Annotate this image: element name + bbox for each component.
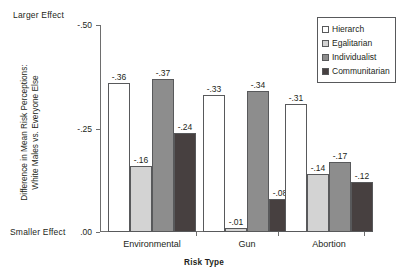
- y-axis-tick-mark: [96, 232, 100, 233]
- x-axis-tick-mark: [364, 232, 365, 236]
- y-axis-tick-label: -.50: [64, 20, 92, 30]
- legend-item[interactable]: Individualist: [322, 50, 390, 64]
- y-axis-title: Difference in Mean Risk Perceptions: Whi…: [19, 48, 40, 218]
- x-axis-tick-mark: [278, 232, 279, 236]
- y-axis-tick-label: .00: [64, 227, 92, 237]
- axis-note-smaller-effect: Smaller Effect: [10, 227, 66, 237]
- bar-value-label: -.34: [243, 80, 273, 90]
- bar-value-label: -.24: [170, 122, 200, 132]
- bar: [351, 182, 373, 232]
- bar-value-label: -.36: [104, 72, 134, 82]
- bar-value-label: -.17: [325, 151, 355, 161]
- legend-item[interactable]: Communitarian: [322, 64, 390, 78]
- y-axis-tick-label: -.25: [64, 124, 92, 134]
- legend-swatch-icon: [322, 68, 329, 75]
- bar-value-label: -.31: [281, 93, 311, 103]
- bar-value-label: -.33: [199, 84, 229, 94]
- bar: [130, 166, 152, 232]
- legend: HierarchEgalitarianIndividualistCommunit…: [317, 17, 396, 83]
- axis-note-larger-effect: Larger Effect: [13, 10, 64, 20]
- y-axis-tick-mark: [96, 129, 100, 130]
- bar: [225, 228, 247, 232]
- bar: [174, 133, 196, 232]
- legend-item[interactable]: Hierarch: [322, 22, 390, 36]
- legend-swatch-icon: [322, 40, 329, 47]
- bar-chart-figure: Larger Effect Smaller Effect Difference …: [0, 0, 408, 277]
- legend-item-label: Individualist: [332, 52, 376, 62]
- legend-item[interactable]: Egalitarian: [322, 36, 390, 50]
- x-axis-category-label: Abortion: [265, 239, 393, 249]
- bar: [152, 79, 174, 232]
- x-axis-title: Risk Type: [0, 258, 408, 267]
- y-axis-tick-mark: [96, 25, 100, 26]
- legend-item-label: Egalitarian: [332, 38, 372, 48]
- y-axis-line: [100, 25, 101, 232]
- legend-swatch-icon: [322, 54, 329, 61]
- bar-value-label: -.12: [347, 171, 377, 181]
- bar-value-label: -.37: [148, 68, 178, 78]
- bar: [247, 91, 269, 232]
- bar: [203, 95, 225, 232]
- legend-item-label: Communitarian: [332, 66, 390, 76]
- legend-item-label: Hierarch: [332, 24, 364, 34]
- bar: [307, 174, 329, 232]
- x-axis-tick-mark: [196, 232, 197, 236]
- legend-swatch-icon: [322, 26, 329, 33]
